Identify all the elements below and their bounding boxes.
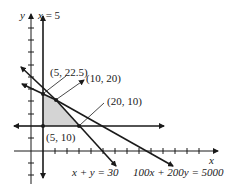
leader-5-22.5 [44,76,66,93]
line-budget-label: 100x + 200y = 5000 [133,166,224,178]
vertex-label-5-10: (5, 10) [46,131,76,144]
x-axis-label: x [208,154,214,166]
vertex-5-10 [41,124,45,128]
x5-rest: = 5 [43,9,61,21]
line-budget-upper [22,84,56,100]
line-x-equals-5-label: x = 5 [37,9,61,21]
leader-10-20 [57,80,84,99]
vertex-label-20-10: (20, 10) [107,95,142,108]
vertex-label-10-20: (10, 20) [86,72,121,85]
graph-canvas: y x x = 5 (5, 22.5) (10, 20) (20, 10) (5… [0,0,227,186]
linear-programming-graph: y x x = 5 (5, 22.5) (10, 20) (20, 10) (5… [0,0,227,186]
leader-20-10 [80,103,104,125]
vertex-label-5-22.5: (5, 22.5) [50,66,88,79]
y-axis-label: y [19,9,25,21]
line-x-plus-y-30-label: x + y = 30 [71,166,119,178]
